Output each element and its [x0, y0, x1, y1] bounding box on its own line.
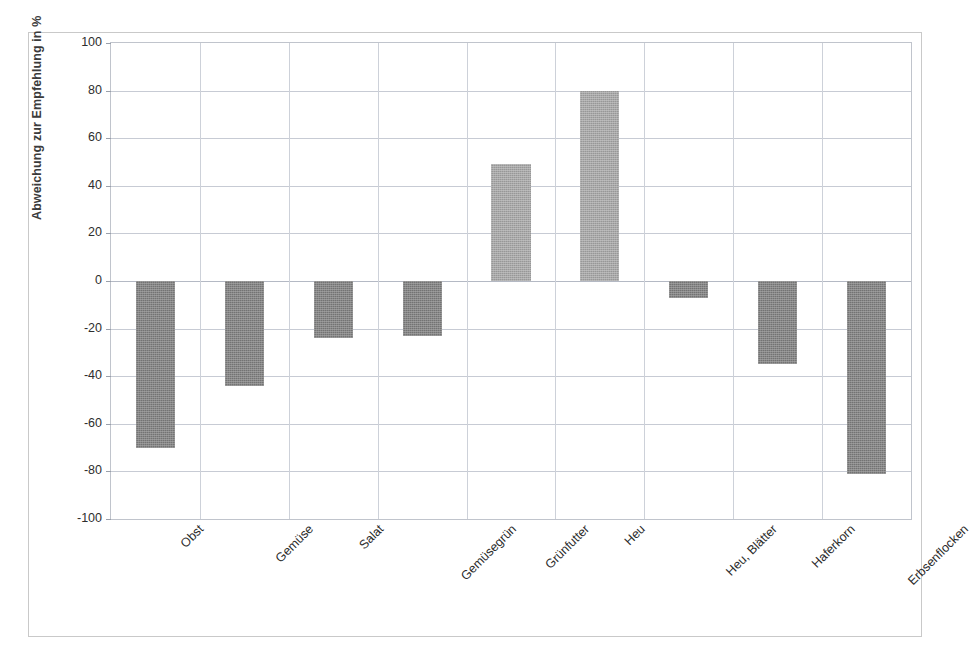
- y-tick-label: 80: [42, 83, 102, 97]
- x-tick-label: Obst: [178, 522, 207, 551]
- bar-gem-se: [225, 281, 264, 386]
- gridline-horizontal: [111, 471, 911, 472]
- gridline-horizontal: [111, 424, 911, 425]
- y-tick-mark: [106, 233, 111, 234]
- bar-texture: [580, 91, 619, 281]
- gridline-vertical: [467, 43, 468, 519]
- y-tick-label: 0: [42, 273, 102, 287]
- y-tick-label: 40: [42, 178, 102, 192]
- y-tick-label: -20: [42, 321, 102, 335]
- x-tick-label: Gemüsegrün: [458, 522, 519, 583]
- y-tick-label: 20: [42, 225, 102, 239]
- bar-texture: [669, 281, 708, 298]
- gridline-vertical: [378, 43, 379, 519]
- x-tick-label: Grünfutter: [542, 522, 592, 572]
- bar-texture: [314, 281, 353, 338]
- bar-texture: [225, 281, 264, 386]
- bar-texture: [136, 281, 175, 448]
- y-tick-mark: [106, 329, 111, 330]
- gridline-vertical: [200, 43, 201, 519]
- bar-gr-nfutter: [491, 164, 530, 281]
- x-tick-label: Heu, Blätter: [723, 522, 780, 579]
- bar-texture: [491, 164, 530, 281]
- y-tick-mark: [106, 519, 111, 520]
- y-tick-mark: [106, 91, 111, 92]
- x-tick-label: Heu: [622, 522, 648, 548]
- gridline-horizontal: [111, 138, 911, 139]
- bar-gem-segr-n: [403, 281, 442, 336]
- bar-texture: [847, 281, 886, 474]
- y-tick-mark: [106, 186, 111, 187]
- gridline-horizontal: [111, 91, 911, 92]
- x-axis-tick-labels: ObstGemüseSalatGemüsegrünGrünfutterHeuHe…: [110, 522, 912, 637]
- bar-heu: [580, 91, 619, 281]
- bar-texture: [758, 281, 797, 364]
- y-tick-label: -60: [42, 416, 102, 430]
- y-tick-label: -40: [42, 368, 102, 382]
- bar-obst: [136, 281, 175, 448]
- bar-texture: [403, 281, 442, 336]
- bar-salat: [314, 281, 353, 338]
- y-tick-label: -100: [42, 511, 102, 525]
- y-tick-mark: [106, 43, 111, 44]
- y-tick-label: 60: [42, 130, 102, 144]
- gridline-vertical: [822, 43, 823, 519]
- y-tick-label: -80: [42, 463, 102, 477]
- gridline-vertical: [555, 43, 556, 519]
- bar-heu-bl-tter: [669, 281, 708, 298]
- y-axis-tick-labels: 100806040200-20-40-60-80-100: [34, 42, 102, 520]
- gridline-vertical: [644, 43, 645, 519]
- x-tick-label: Gemüse: [273, 522, 316, 565]
- y-tick-mark: [106, 471, 111, 472]
- y-tick-mark: [106, 424, 111, 425]
- plot-area: [110, 42, 912, 520]
- gridline-vertical: [733, 43, 734, 519]
- bar-erbsenflocken: [847, 281, 886, 474]
- bar-haferkorn: [758, 281, 797, 364]
- x-tick-label: Salat: [357, 522, 387, 552]
- y-tick-mark: [106, 138, 111, 139]
- y-tick-mark: [106, 376, 111, 377]
- x-tick-label: Haferkorn: [809, 522, 858, 571]
- gridline-vertical: [289, 43, 290, 519]
- y-tick-mark: [106, 281, 111, 282]
- y-tick-label: 100: [42, 35, 102, 49]
